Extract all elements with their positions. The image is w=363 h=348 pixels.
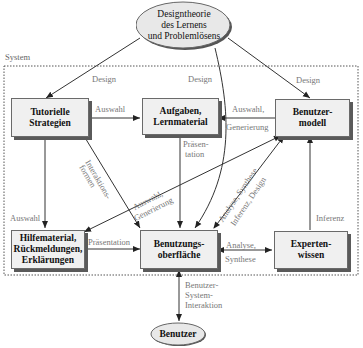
node-label: Designtheorie des Lernens und Problemlös… — [148, 9, 221, 42]
node-user: Benutzer — [150, 322, 206, 346]
edge-label-tasks-ui-1: Präsen- — [183, 139, 209, 149]
edge-label-tasks-ui-2: tation — [185, 149, 204, 159]
node-expert-knowledge: Experten- wissen — [274, 231, 348, 269]
edge-label-ui-expert-1: Analyse, — [226, 240, 256, 250]
node-label: Benutzer — [160, 329, 197, 340]
node-user-interface: Benutzungs- oberfläche — [140, 230, 218, 269]
edge-label-tutorial-tasks: Auswahl — [95, 104, 125, 114]
edge-label-design-right: Design — [296, 75, 320, 85]
edge-label-usermodel-tasks-2: Generierung — [226, 122, 268, 132]
edge-label-usermodel-tasks-1: Auswahl, — [232, 104, 264, 114]
node-tutorial-strategies: Tutorielle Strategien — [11, 98, 89, 137]
edge-label-design-mid: Design — [188, 74, 212, 84]
edge-label-ui-user-1: Benutzer- — [185, 280, 218, 290]
edge-label-ui-user-3: Interaktion — [185, 300, 222, 310]
system-label: System — [5, 52, 30, 62]
edge-label-help-ui: Präsentation — [88, 237, 130, 247]
edge-label-ui-user-2: System- — [185, 290, 213, 300]
node-help-material: Hilfematerial, Rückmeldungen, Erklärunge… — [11, 230, 85, 269]
edge-label-ui-expert-2: Synthese — [225, 254, 256, 264]
node-tasks-material: Aufgaben, Lernmaterial — [142, 98, 219, 135]
node-user-model: Benutzer- modell — [275, 99, 350, 137]
edge-label-design-left: Design — [92, 74, 116, 84]
edge-label-tutorial-help: Auswahl — [10, 213, 40, 223]
edge-label-expert-usermodel: Inferenz — [316, 213, 344, 223]
node-design-theory: Designtheorie des Lernens und Problemlös… — [136, 1, 232, 49]
